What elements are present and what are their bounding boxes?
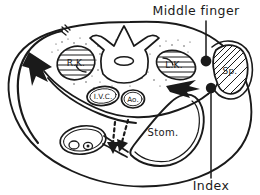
inferior-vena-cava-label: I.V.C. bbox=[94, 92, 113, 101]
left-kidney-label: L.K. bbox=[165, 60, 182, 70]
middle-finger-marker bbox=[201, 56, 212, 67]
stomach-label: Stom. bbox=[148, 127, 179, 138]
palpation-direction-arrow bbox=[166, 80, 200, 98]
aorta-label: Ao. bbox=[127, 95, 139, 104]
spleen-label: Sp. bbox=[223, 66, 238, 76]
index-marker bbox=[206, 83, 216, 93]
middle-finger-label: Middle finger bbox=[152, 3, 239, 18]
anatomical-figure: Middle finger Index R.K. L.K. I.V.C. Ao.… bbox=[0, 0, 260, 195]
dashed-arrow-left bbox=[107, 122, 119, 154]
abdominal-cross-section-drawing: Middle finger Index R.K. L.K. I.V.C. Ao.… bbox=[0, 0, 260, 195]
dashed-arrow-right bbox=[117, 120, 128, 152]
index-label: Index bbox=[193, 178, 229, 193]
right-kidney-label: R.K. bbox=[67, 58, 85, 68]
spinal-canal bbox=[115, 57, 134, 65]
